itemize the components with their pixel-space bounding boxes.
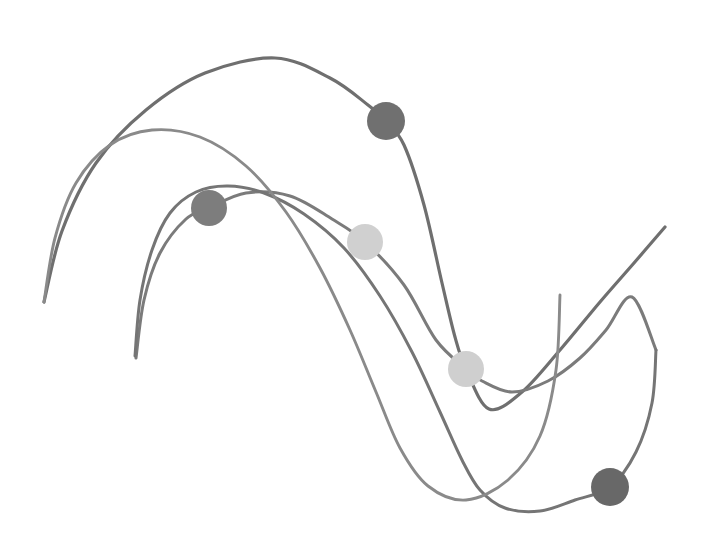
marker-4[interactable]	[448, 351, 484, 387]
marker-2[interactable]	[191, 190, 227, 226]
curve-plot-canvas	[0, 0, 710, 552]
marker-3[interactable]	[347, 224, 383, 260]
chart-figure	[0, 0, 710, 552]
marker-1[interactable]	[367, 102, 405, 140]
marker-5[interactable]	[591, 468, 629, 506]
